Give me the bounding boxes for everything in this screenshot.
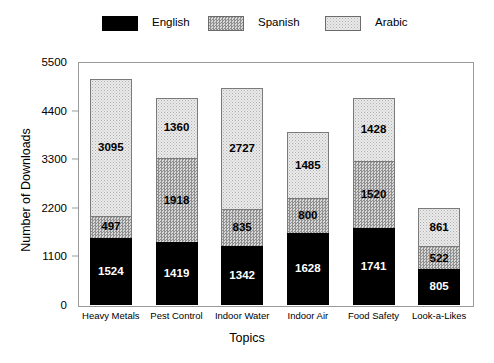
bar-segment-value-label: 522 xyxy=(430,253,449,265)
bar-segment-value-label: 800 xyxy=(298,210,317,222)
bar-segment-value-label: 2727 xyxy=(229,143,255,155)
y-axis-title: Number of Downloads xyxy=(19,100,33,280)
bar-segment-value-label: 1419 xyxy=(164,268,190,280)
bar-segment-value-label: 805 xyxy=(430,281,449,293)
x-axis-tick-label: Food Safety xyxy=(348,310,399,321)
legend-swatch-english-icon xyxy=(102,16,138,31)
bar-group[interactable]: 14858001628 xyxy=(287,132,329,305)
x-axis-tick-label: Pest Control xyxy=(150,310,202,321)
bar-segment-english[interactable]: 1628 xyxy=(287,233,329,305)
stacked-bar-chart: English Spanish Arabic Number of Downloa… xyxy=(0,0,494,363)
y-axis-tick-label: 4400 xyxy=(41,105,67,117)
legend-item-spanish: Spanish xyxy=(208,13,300,33)
bar-segment-english[interactable]: 1342 xyxy=(221,246,263,305)
legend-item-arabic: Arabic xyxy=(325,13,408,33)
bar-group[interactable]: 27278351342 xyxy=(221,88,263,305)
bar-group[interactable]: 861522805 xyxy=(418,208,460,305)
bar-segment-spanish[interactable]: 835 xyxy=(221,209,263,246)
bar-segment-value-label: 1741 xyxy=(361,261,387,273)
y-axis-tick-label: 3300 xyxy=(41,153,67,165)
bar-segment-spanish[interactable]: 1918 xyxy=(156,158,198,243)
bar-group[interactable]: 142815201741 xyxy=(353,98,395,305)
bar-segment-arabic[interactable]: 3095 xyxy=(90,79,132,216)
y-axis-tick-label: 2200 xyxy=(41,202,67,214)
bar-segment-spanish[interactable]: 497 xyxy=(90,216,132,238)
chart-legend: English Spanish Arabic xyxy=(0,13,494,39)
bar-segment-spanish[interactable]: 800 xyxy=(287,198,329,233)
bar-segment-value-label: 1360 xyxy=(164,122,190,134)
bar-segment-value-label: 1520 xyxy=(361,189,387,201)
bar-segment-arabic[interactable]: 1485 xyxy=(287,132,329,198)
legend-item-english: English xyxy=(102,13,190,33)
bar-segment-value-label: 1524 xyxy=(98,266,124,278)
bar-segment-value-label: 3095 xyxy=(98,142,124,154)
x-axis-title: Topics xyxy=(0,331,494,345)
plot-area: 3095497152413601918141927278351342148580… xyxy=(78,62,472,305)
bar-segment-spanish[interactable]: 1520 xyxy=(353,161,395,228)
bar-segment-value-label: 497 xyxy=(101,221,120,233)
x-axis-tick-label: Look-a-Likes xyxy=(412,310,466,321)
legend-label-arabic: Arabic xyxy=(375,17,408,29)
bar-segment-english[interactable]: 1524 xyxy=(90,238,132,305)
x-axis-tick-label: Indoor Water xyxy=(215,310,270,321)
legend-label-english: English xyxy=(152,17,190,29)
bar-segment-spanish[interactable]: 522 xyxy=(418,246,460,269)
x-axis-tick-label: Indoor Air xyxy=(287,310,328,321)
legend-swatch-spanish-icon xyxy=(208,16,244,31)
bar-segment-arabic[interactable]: 2727 xyxy=(221,88,263,208)
bar-segment-arabic[interactable]: 861 xyxy=(418,208,460,246)
bar-segment-english[interactable]: 805 xyxy=(418,269,460,305)
y-axis-tick-label: 0 xyxy=(61,299,67,311)
legend-swatch-arabic-icon xyxy=(325,16,361,31)
bar-segment-value-label: 1628 xyxy=(295,263,321,275)
bar-segment-value-label: 835 xyxy=(233,222,252,234)
bar-segment-value-label: 861 xyxy=(430,222,449,234)
y-axis-tick-label: 1100 xyxy=(42,250,67,262)
bar-segment-value-label: 1342 xyxy=(229,270,255,282)
legend-label-spanish: Spanish xyxy=(258,17,300,29)
bar-group[interactable]: 30954971524 xyxy=(90,79,132,305)
bar-segment-value-label: 1485 xyxy=(295,160,321,172)
y-axis-tick-label: 5500 xyxy=(41,56,67,68)
bar-segment-arabic[interactable]: 1360 xyxy=(156,98,198,158)
bar-group[interactable]: 136019181419 xyxy=(156,98,198,306)
bar-segment-value-label: 1428 xyxy=(361,124,387,136)
x-axis-tick-label: Heavy Metals xyxy=(82,310,140,321)
bar-segment-english[interactable]: 1741 xyxy=(353,228,395,305)
bar-segment-value-label: 1918 xyxy=(164,195,190,207)
bar-segment-arabic[interactable]: 1428 xyxy=(353,98,395,161)
bar-segment-english[interactable]: 1419 xyxy=(156,242,198,305)
